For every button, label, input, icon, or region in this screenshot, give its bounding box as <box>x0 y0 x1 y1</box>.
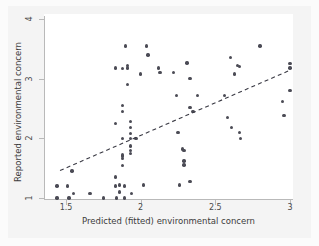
x-tick-label: 1.5 <box>60 203 73 212</box>
scatter-point <box>139 72 142 75</box>
scatter-point <box>129 137 132 140</box>
scatter-point <box>182 149 185 152</box>
y-tick-mark <box>39 138 44 139</box>
y-tick-label: 1 <box>25 191 34 205</box>
scatter-point <box>67 196 70 199</box>
scatter-point <box>114 122 117 125</box>
scatter-point <box>185 61 188 64</box>
y-tick-mark <box>39 198 44 199</box>
y-tick-mark <box>39 19 44 20</box>
x-tick-label: 2.5 <box>209 203 222 212</box>
scatter-plot-figure: 1234 1.522.53 Reported environmental con… <box>0 0 319 246</box>
scatter-point <box>191 110 194 113</box>
scatter-point <box>72 192 75 195</box>
scatter-point <box>102 196 105 199</box>
y-axis-line <box>44 16 45 200</box>
scatter-point <box>114 175 117 178</box>
x-axis-title: Predicted (fitted) environmental concern <box>44 216 293 226</box>
scatter-point <box>188 106 191 109</box>
scatter-point <box>188 77 191 80</box>
plot-area <box>44 14 293 199</box>
x-tick-label: 3 <box>287 203 292 212</box>
scatter-point <box>114 184 117 187</box>
scatter-point <box>129 144 132 147</box>
scatter-point <box>146 53 149 56</box>
scatter-point <box>226 116 229 119</box>
scatter-point <box>288 89 291 92</box>
scatter-point <box>182 159 185 162</box>
scatter-point <box>178 183 181 186</box>
scatter-point <box>88 192 91 195</box>
scatter-point <box>142 183 145 186</box>
scatter-point <box>123 184 126 187</box>
scatter-point <box>288 66 291 69</box>
scatter-point <box>70 169 73 172</box>
x-tick-label: 2 <box>138 203 143 212</box>
scatter-point <box>223 94 226 97</box>
y-tick-label: 3 <box>25 72 34 86</box>
scatter-point <box>238 131 241 134</box>
scatter-point <box>157 66 160 69</box>
scatter-point <box>55 196 58 199</box>
y-tick-label: 4 <box>25 12 34 26</box>
scatter-point <box>126 66 129 69</box>
scatter-point <box>188 180 191 183</box>
scatter-point <box>129 152 132 155</box>
x-axis-line <box>44 199 293 200</box>
scatter-point <box>258 44 261 47</box>
scatter-point <box>182 163 185 166</box>
scatter-point <box>145 44 148 47</box>
scatter-point <box>114 66 117 69</box>
scatter-point <box>134 137 137 140</box>
scatter-point <box>66 184 69 187</box>
scatter-point <box>176 131 179 134</box>
scatter-point <box>55 184 58 187</box>
y-tick-mark <box>39 79 44 80</box>
scatter-point <box>123 196 126 199</box>
y-tick-label: 2 <box>25 131 34 145</box>
y-axis-title: Reported environmental concern <box>13 32 23 192</box>
